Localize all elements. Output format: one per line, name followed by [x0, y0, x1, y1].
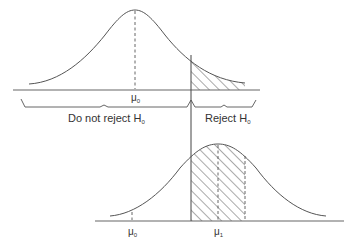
mu0-label-top: μ0 [131, 92, 141, 104]
null-distribution-curve [29, 10, 245, 84]
power-region-shading [110, 144, 326, 221]
reject-label: Reject H0 [205, 112, 251, 125]
hypothesis-test-diagram: μ0 Do not reject H0 Reject H0 μ0 [0, 0, 352, 246]
mu0-label-bottom: μ0 [128, 226, 138, 238]
mu1-label-bottom: μ1 [214, 226, 224, 238]
null-distribution-panel: μ0 Do not reject H0 Reject H0 [13, 10, 260, 125]
do-not-reject-label: Do not reject H0 [68, 112, 145, 125]
rejection-region-shading [29, 10, 245, 90]
do-not-reject-brace [21, 99, 191, 107]
alternative-distribution-panel: μ0 μ1 [95, 144, 344, 238]
reject-brace [191, 100, 256, 107]
